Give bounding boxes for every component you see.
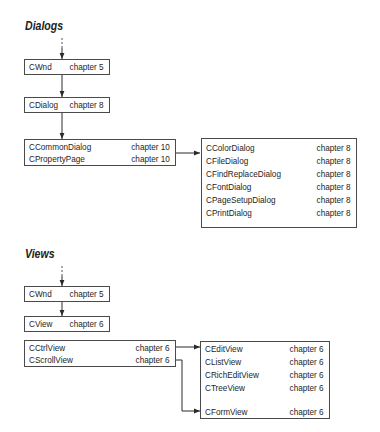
chapter-ref: chapter 8 (317, 155, 351, 167)
chapter-ref: chapter 6 (290, 369, 324, 381)
class-row: CFindReplaceDialog chapter 8 (206, 168, 351, 180)
chapter-ref: chapter 8 (70, 99, 104, 111)
class-name: CWnd (29, 288, 52, 300)
class-box-cwnd: CWnd chapter 5 (24, 59, 110, 75)
class-row: CColorDialog chapter 8 (206, 142, 351, 154)
chapter-ref: chapter 8 (317, 181, 351, 193)
class-name: CScrollView (29, 354, 73, 366)
class-box-common-dialogs: CCommonDialog chapter 10 CPropertyPage c… (24, 139, 176, 166)
dialogs-section-title: Dialogs (25, 19, 63, 33)
chapter-ref: chapter 5 (70, 61, 104, 73)
chapter-ref: chapter 8 (317, 194, 351, 206)
class-row: CPropertyPage chapter 10 (29, 153, 170, 165)
chapter-ref: chapter 6 (290, 343, 324, 355)
chapter-ref: chapter 6 (290, 356, 324, 368)
class-row: CEditView chapter 6 (205, 343, 324, 355)
chapter-ref: chapter 8 (317, 207, 351, 219)
chapter-ref: chapter 6 (136, 342, 170, 354)
class-box-cview: CView chapter 6 (24, 316, 110, 332)
class-name: CTreeView (205, 382, 245, 394)
class-name: CCommonDialog (29, 141, 91, 153)
class-name: CRichEditView (205, 369, 259, 381)
class-box-dialog-derived: CColorDialog chapter 8 CFileDialog chapt… (201, 138, 357, 228)
class-name: CPrintDialog (206, 207, 252, 219)
class-name: CListView (205, 356, 241, 368)
class-row: CFontDialog chapter 8 (206, 181, 351, 193)
chapter-ref: chapter 10 (131, 141, 170, 153)
class-name: CFindReplaceDialog (206, 168, 281, 180)
class-name: CWnd (29, 61, 52, 73)
chapter-ref: chapter 8 (317, 142, 351, 154)
arrow-scrollview-to-formview (176, 360, 200, 411)
class-name: CDialog (29, 99, 58, 111)
class-box-cdialog: CDialog chapter 8 (24, 97, 110, 113)
class-row: CFormView chapter 6 (205, 406, 324, 418)
class-row: CPrintDialog chapter 8 (206, 207, 351, 219)
class-box-view-derived: CEditView chapter 6 CListView chapter 6 … (200, 341, 330, 419)
class-row: CScrollView chapter 6 (29, 354, 170, 366)
chapter-ref: chapter 6 (136, 354, 170, 366)
class-name: CFileDialog (206, 155, 248, 167)
class-name: CPageSetupDialog (206, 194, 275, 206)
class-row: CPageSetupDialog chapter 8 (206, 194, 351, 206)
class-name: CColorDialog (206, 142, 255, 154)
class-name: CPropertyPage (29, 153, 85, 165)
chapter-ref: chapter 10 (131, 153, 170, 165)
class-row: CDialog chapter 8 (29, 99, 104, 111)
class-row: CTreeView chapter 6 (205, 382, 324, 394)
class-name: CCtrlView (29, 342, 65, 354)
class-row: CWnd chapter 5 (29, 61, 104, 73)
class-name: CEditView (205, 343, 243, 355)
class-name: CFontDialog (206, 181, 251, 193)
class-box-view-bases: CCtrlView chapter 6 CScrollView chapter … (24, 340, 176, 367)
chapter-ref: chapter 5 (70, 288, 104, 300)
class-row: CFileDialog chapter 8 (206, 155, 351, 167)
chapter-ref: chapter 6 (290, 382, 324, 394)
class-name: CFormView (205, 406, 248, 418)
views-section-title: Views (25, 247, 55, 261)
class-box-views-cwnd: CWnd chapter 5 (24, 286, 110, 302)
class-name: CView (29, 318, 52, 330)
chapter-ref: chapter 6 (70, 318, 104, 330)
class-row: CCommonDialog chapter 10 (29, 141, 170, 153)
class-row: CRichEditView chapter 6 (205, 369, 324, 381)
class-row: CListView chapter 6 (205, 356, 324, 368)
class-row: CCtrlView chapter 6 (29, 342, 170, 354)
class-row: CWnd chapter 5 (29, 288, 104, 300)
chapter-ref: chapter 6 (290, 406, 324, 418)
chapter-ref: chapter 8 (317, 168, 351, 180)
class-row: CView chapter 6 (29, 318, 104, 330)
